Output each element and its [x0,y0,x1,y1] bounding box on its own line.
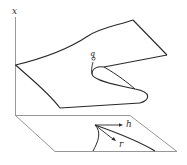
h-arrowhead-icon [119,123,123,126]
surface-right-lower-edge [104,55,167,67]
diagram-canvas [0,0,187,165]
surface-right-edge [133,20,167,55]
control-label-h: h [126,120,132,129]
fold-label-q: q [90,50,95,58]
cusp-right-branch [95,125,155,151]
fold-outer-curve [92,67,148,103]
r-arrowhead-icon [112,137,117,141]
surface-left-edge [16,65,61,108]
surface-top-edge [16,20,134,65]
surface-bottom-edge [60,103,140,108]
r-arrow [95,125,113,139]
control-label-r: r [119,140,123,149]
cusp-catastrophe-diagram: x q h r [0,0,187,165]
control-plane [16,116,178,152]
cusp-left-branch [93,125,99,151]
axis-label-x: x [12,7,17,16]
